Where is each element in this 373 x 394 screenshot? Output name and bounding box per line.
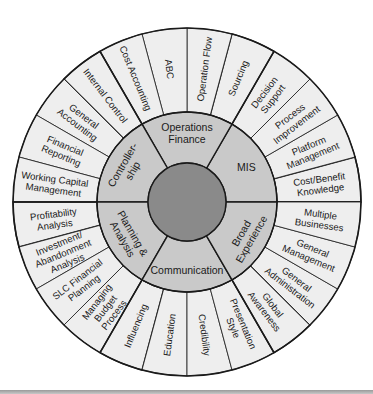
Communication: Communication (151, 264, 224, 276)
inner-circle (148, 163, 226, 241)
competency-wheel: Cost/BenefitKnowledgePlatformManagementP… (0, 0, 373, 394)
Operations Finance: OperationsFinance (161, 121, 212, 145)
label-line: Finance (168, 133, 206, 145)
label-line: MIS (237, 161, 256, 173)
label-line: Operations (161, 121, 212, 133)
MIS: MIS (237, 161, 256, 173)
bottom-rule (0, 390, 373, 394)
label-line: Communication (151, 264, 224, 276)
